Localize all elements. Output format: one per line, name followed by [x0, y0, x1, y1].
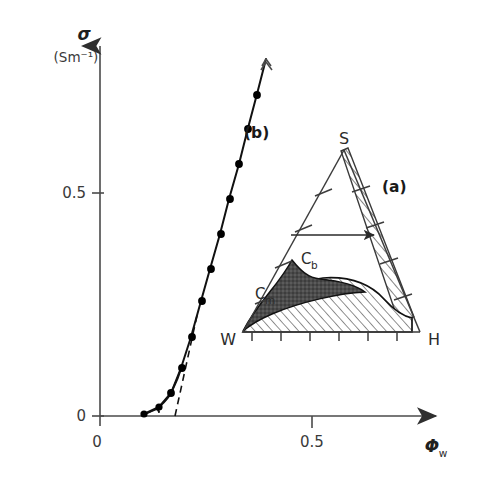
- inset-vertex-label-W: W: [220, 330, 236, 349]
- data-point: [167, 389, 175, 397]
- data-point: [207, 265, 215, 273]
- data-point: [140, 410, 147, 417]
- data-point: [155, 403, 162, 410]
- data-point: [253, 91, 261, 99]
- inset-label-a: (a): [382, 178, 407, 196]
- inset-region-label-cb: C b: [301, 250, 318, 271]
- data-point: [188, 333, 196, 341]
- data-point: [178, 364, 186, 372]
- inset-vertex-label-S: S: [339, 129, 349, 148]
- data-point: [217, 230, 225, 238]
- data-point: [235, 160, 243, 168]
- series-b-arrow-tip: [261, 59, 272, 70]
- data-point: [226, 195, 234, 203]
- series-b: [140, 59, 272, 418]
- figure-panel: 0 0.5 0 0.5 σ (Sm⁻¹) Φ w: [0, 0, 480, 480]
- inset-label-cb-sub: b: [311, 259, 318, 271]
- x-axis-subscript: w: [439, 447, 448, 459]
- y-axis-symbol: σ: [77, 24, 91, 44]
- x-tick-label-0point5: 0.5: [300, 433, 324, 451]
- y-tick-label-0: 0: [76, 407, 86, 425]
- inset-vertex-label-H: H: [428, 330, 440, 349]
- data-point: [198, 297, 206, 305]
- y-tick-label-0point5: 0.5: [62, 184, 86, 202]
- series-b-line: [144, 59, 266, 414]
- series-b-shoulder: [144, 366, 182, 414]
- main-axes: [92, 46, 436, 428]
- y-axis-units: (Sm⁻¹): [54, 49, 99, 65]
- x-axis-label: Φ w: [425, 436, 448, 459]
- inset-bottom-ticks: [252, 332, 397, 341]
- inset-label-cm-sub: m: [265, 294, 275, 306]
- x-tick-label-0: 0: [92, 433, 102, 451]
- curve-label-b: (b): [244, 124, 269, 142]
- x-axis-symbol: Φ: [425, 436, 439, 456]
- inset-ternary-diagram: W H S C b C m (a): [220, 129, 440, 349]
- inset-label-cm-base: C: [255, 285, 265, 303]
- figure-svg: 0 0.5 0 0.5 σ (Sm⁻¹) Φ w: [0, 0, 480, 480]
- inset-label-cb-base: C: [301, 250, 311, 268]
